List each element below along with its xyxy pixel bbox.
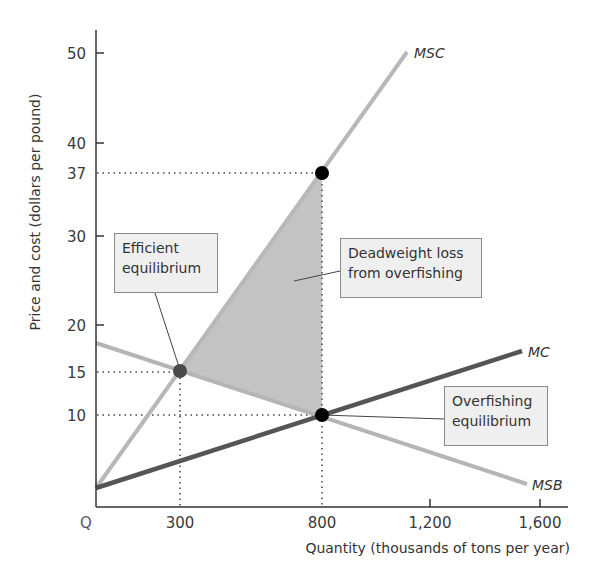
x-tick-300: 300: [166, 514, 195, 532]
chart-canvas: 50 40 37 30 20 15 10 Q 300 800 1,200 1,6…: [0, 0, 593, 576]
origin-label: Q: [80, 514, 92, 532]
y-tick-37: 37: [67, 165, 86, 183]
msc-label: MSC: [414, 45, 445, 61]
y-tick-50: 50: [67, 45, 86, 63]
overfishing-equilibrium-point: [315, 408, 329, 422]
efficient-box-line2: equilibrium: [122, 258, 210, 278]
x-tick-800: 800: [308, 514, 337, 532]
y-axis-title: Price and cost (dollars per pound): [27, 94, 43, 331]
dwl-box-line2: from overfishing: [348, 263, 474, 283]
mc-label: MC: [528, 344, 550, 360]
x-tick-1600: 1,600: [519, 514, 562, 532]
dwl-box-line1: Deadweight loss: [348, 243, 474, 263]
msc-overfishing-point: [315, 166, 329, 180]
efficient-equilibrium-point: [173, 364, 187, 378]
y-tick-15: 15: [67, 364, 86, 382]
y-tick-30: 30: [67, 228, 86, 246]
y-tick-10: 10: [67, 407, 86, 425]
y-tick-40: 40: [67, 135, 86, 153]
msb-label: MSB: [532, 477, 563, 493]
efficient-box-line1: Efficient: [122, 238, 210, 258]
y-tick-20: 20: [67, 317, 86, 335]
overfishing-box-line2: equilibrium: [452, 411, 540, 431]
x-tick-1200: 1,200: [409, 514, 452, 532]
overfishing-box-line1: Overfishing: [452, 391, 540, 411]
x-tick-marks: [430, 499, 540, 507]
overfishing-equilibrium-box: Overfishing equilibrium: [444, 386, 548, 446]
deadweight-loss-box: Deadweight loss from overfishing: [340, 238, 482, 298]
y-tick-marks: [96, 53, 104, 325]
x-axis-title: Quantity (thousands of tons per year): [305, 540, 570, 556]
efficient-equilibrium-box: Efficient equilibrium: [114, 233, 218, 293]
